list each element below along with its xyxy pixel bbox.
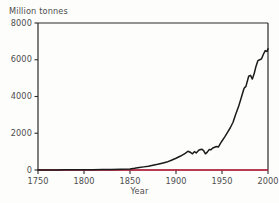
y-tick-label: 2000 — [0, 128, 32, 138]
x-tick-label: 1800 — [64, 176, 104, 186]
chart-figure: Million tonnes 02000400060008000 1750180… — [0, 0, 279, 203]
emissions-line — [38, 49, 268, 170]
x-tick-label: 1850 — [110, 176, 150, 186]
y-tick-label: 6000 — [0, 54, 32, 64]
plot-area — [0, 0, 279, 203]
axis-frame — [38, 23, 268, 170]
y-tick-label: 4000 — [0, 91, 32, 101]
y-tick-label: 8000 — [0, 18, 32, 28]
x-axis-label: Year — [0, 186, 279, 196]
x-tick-label: 1750 — [18, 176, 58, 186]
x-tick-label: 1900 — [156, 176, 196, 186]
x-tick-label: 2000 — [248, 176, 279, 186]
y-tick-label: 0 — [0, 165, 32, 175]
x-tick-label: 1950 — [202, 176, 242, 186]
